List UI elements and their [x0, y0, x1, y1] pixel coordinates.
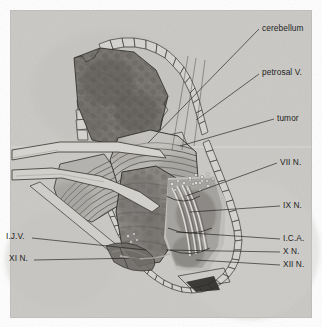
- label-tumor: tumor: [277, 114, 299, 123]
- label-cerebellum: cerebellum: [262, 24, 304, 33]
- illustration-figure: cerebellum petrosal V. tumor VII N. IX N…: [0, 0, 322, 327]
- label-vagus-nerve-x: X N.: [283, 247, 300, 256]
- label-glossopharyngeal-nerve-ix: IX N.: [283, 201, 302, 210]
- label-internal-jugular-vein: I.J.V.: [6, 232, 25, 241]
- label-accessory-nerve-xi: XI N.: [9, 254, 28, 263]
- surgical-illustration-plate: [0, 0, 322, 327]
- label-petrosal-vein: petrosal V.: [262, 68, 302, 77]
- label-hypoglossal-nerve-xii: XII N.: [283, 260, 304, 269]
- label-facial-nerve-vii: VII N.: [280, 158, 301, 167]
- label-internal-carotid-artery: I.C.A.: [283, 234, 304, 243]
